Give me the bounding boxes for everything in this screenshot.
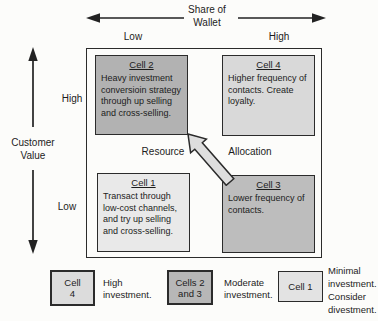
cell-1-title: Cell 1	[103, 177, 184, 189]
cell-4-title: Cell 4	[228, 59, 309, 71]
legend-label-high-investment: High investment.	[103, 277, 165, 300]
customer-value-axis-title: Customer Value	[2, 136, 64, 162]
legend-box-cell-1: Cell 1	[278, 271, 323, 302]
cell-1-body: Transact through low-cost channels, and …	[103, 191, 184, 237]
customer-value-down-arrow-icon	[27, 170, 39, 254]
legend-box-cells-2-and-3: Cells 2 and 3	[167, 270, 213, 305]
wallet-low-label: Low	[117, 31, 149, 43]
share-of-wallet-left-arrow-icon	[86, 12, 184, 24]
matrix-cell-2: Cell 2 Heavy investment conversioin stra…	[95, 55, 188, 135]
resource-allocation-arrow-icon	[182, 130, 238, 186]
legend-box-cell-4: Cell 4	[50, 270, 95, 306]
cell-4-body: Higher frequency of contacts. Create loy…	[228, 73, 309, 108]
customer-value-up-arrow-icon	[27, 47, 39, 127]
wallet-high-label: High	[261, 31, 297, 43]
share-of-wallet-axis-title: Share of Wallet	[177, 3, 237, 29]
share-of-wallet-right-arrow-icon	[238, 12, 326, 24]
cell-2-title: Cell 2	[101, 59, 182, 71]
legend-label-minimal-investment: Minimal investment. Consider divestment.	[328, 264, 378, 316]
share-of-wallet-matrix-figure: Share of Wallet Low High High Customer V…	[0, 0, 378, 321]
matrix-cell-1: Cell 1 Transact through low-cost channel…	[97, 173, 190, 252]
customer-value-low-label: Low	[51, 201, 83, 213]
cell-2-body: Heavy investment conversioin strategy th…	[101, 73, 182, 119]
matrix-cell-4: Cell 4 Higher frequency of contacts. Cre…	[222, 55, 315, 136]
customer-value-high-label: High	[56, 93, 88, 105]
cell-3-title: Cell 3	[228, 179, 309, 191]
matrix-cell-3: Cell 3 Lower frequency of contacts.	[222, 175, 315, 253]
cell-3-body: Lower frequency of contacts.	[228, 193, 309, 216]
